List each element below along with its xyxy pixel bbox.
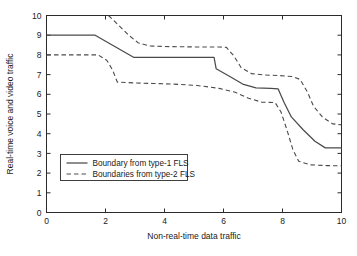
x-tick-label: 4 bbox=[162, 216, 167, 226]
x-tick-label: 8 bbox=[280, 216, 285, 226]
line-chart: 0246810 012345678910 Non-real-time data … bbox=[0, 0, 357, 256]
y-tick-label: 0 bbox=[37, 208, 42, 218]
x-tick-label: 10 bbox=[337, 216, 347, 226]
y-tick-label: 8 bbox=[37, 50, 42, 60]
y-tick-label: 2 bbox=[37, 168, 42, 178]
y-axis-title: Real-time voice and video traffic bbox=[5, 53, 15, 175]
y-tick-label: 3 bbox=[37, 149, 42, 159]
y-tick-label: 1 bbox=[37, 188, 42, 198]
legend-label: Boundaries from type-2 FLS bbox=[93, 170, 196, 179]
x-axis-title: Non-real-time data traffic bbox=[147, 231, 241, 241]
legend-label: Boundary from type-1 FLS bbox=[93, 159, 190, 168]
chart-legend: Boundary from type-1 FLSBoundaries from … bbox=[61, 155, 196, 181]
y-tick-label: 7 bbox=[37, 70, 42, 80]
y-tick-label: 10 bbox=[32, 11, 42, 21]
y-tick-label: 6 bbox=[37, 89, 42, 99]
y-tick-label: 9 bbox=[37, 30, 42, 40]
chart-figure: 0246810 012345678910 Non-real-time data … bbox=[0, 0, 357, 256]
y-tick-label: 5 bbox=[37, 109, 42, 119]
x-tick-label: 0 bbox=[44, 216, 49, 226]
x-tick-label: 6 bbox=[221, 216, 226, 226]
y-tick-label: 4 bbox=[37, 129, 42, 139]
x-tick-label: 2 bbox=[103, 216, 108, 226]
chart-background bbox=[0, 0, 357, 256]
